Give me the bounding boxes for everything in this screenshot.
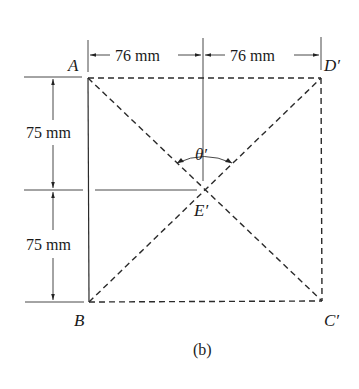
side-ab <box>88 78 89 302</box>
deformed-square-diagram: A D′ B C′ E′ θ′ 76 mm 76 mm 75 mm 75 mm … <box>0 0 359 389</box>
angle-label-theta: θ′ <box>195 145 207 164</box>
point-label-b: B <box>74 311 85 330</box>
side-bc <box>89 301 322 302</box>
dim-label-top-right: 76 mm <box>230 47 275 64</box>
point-label-c: C′ <box>324 311 339 330</box>
extension-lines <box>24 37 321 302</box>
point-label-d: D′ <box>323 56 340 75</box>
point-label-a: A <box>67 56 79 75</box>
point-label-e: E′ <box>193 201 208 220</box>
dim-label-left-upper: 75 mm <box>26 124 71 141</box>
figure-caption: (b) <box>193 341 212 359</box>
side-dc <box>321 78 322 301</box>
dim-label-left-lower: 75 mm <box>26 236 71 253</box>
dim-label-top-left: 76 mm <box>115 47 160 64</box>
